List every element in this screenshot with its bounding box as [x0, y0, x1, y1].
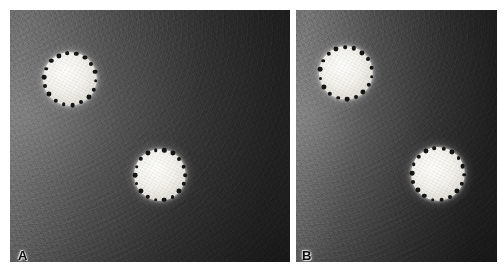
disc-perimeter-marker — [177, 157, 181, 161]
panel-a — [10, 10, 290, 262]
disc-perimeter-marker — [43, 84, 47, 88]
disc-perimeter-marker — [366, 57, 370, 61]
disc-perimeter-marker — [319, 77, 323, 81]
disc-perimeter-marker — [462, 173, 465, 176]
disc-perimeter-marker — [145, 151, 150, 156]
disc-perimeter-marker — [92, 87, 96, 91]
panel-label-a: A — [18, 249, 28, 262]
disc-perimeter-marker — [177, 189, 182, 194]
disc-perimeter-marker — [93, 70, 98, 75]
disc-perimeter-marker — [361, 90, 366, 95]
disc-perimeter-marker — [415, 188, 420, 193]
disc-perimeter-marker — [369, 65, 374, 70]
disc-a-2 — [129, 144, 191, 206]
disc-perimeter-marker — [135, 182, 139, 186]
disc-perimeter-marker — [321, 84, 326, 89]
disc-b-1 — [314, 41, 378, 105]
disc-perimeter-marker — [370, 75, 373, 78]
disc-perimeter-marker — [89, 62, 93, 66]
disc-perimeter-marker — [170, 151, 175, 156]
disc-perimeter-marker — [181, 164, 186, 169]
disc-perimeter-marker — [133, 173, 138, 178]
disc-perimeter-marker — [334, 46, 339, 51]
disc-perimeter-marker — [367, 83, 371, 87]
disc-perimeter-marker — [82, 55, 87, 60]
disc-perimeter-marker — [455, 189, 460, 194]
panel-b — [296, 10, 497, 262]
disc-perimeter-marker — [79, 100, 83, 104]
disc-perimeter-marker — [460, 182, 464, 186]
disc-perimeter-marker — [457, 156, 461, 160]
disc-perimeter-marker — [171, 195, 175, 199]
disc-perimeter-marker — [162, 197, 167, 202]
disc-perimeter-marker — [439, 197, 444, 202]
figure-root: A B — [0, 0, 504, 280]
disc-perimeter-marker — [423, 149, 428, 154]
disc-perimeter-marker — [318, 67, 323, 72]
disc-a-1 — [38, 47, 102, 111]
disc-perimeter-marker — [183, 173, 186, 176]
disc-perimeter-marker — [181, 181, 185, 185]
disc-b-2 — [406, 142, 470, 206]
disc-perimeter-marker — [354, 95, 358, 99]
disc-perimeter-marker — [86, 95, 91, 100]
disc-perimeter-marker — [449, 149, 454, 154]
disc-perimeter-marker — [345, 97, 350, 102]
disc-perimeter-marker — [460, 164, 465, 169]
disc-perimeter-marker — [360, 50, 365, 55]
disc-perimeter-marker — [411, 180, 415, 184]
disc-perimeter-marker — [410, 171, 415, 176]
disc-perimeter-marker — [448, 195, 452, 199]
disc-perimeter-marker — [56, 53, 61, 58]
disc-perimeter-marker — [42, 75, 47, 80]
disc-perimeter-marker — [46, 92, 51, 97]
disc-perimeter-marker — [138, 189, 143, 194]
disc-perimeter-marker — [94, 79, 97, 82]
disc-perimeter-marker — [70, 103, 75, 108]
panel-label-b: B — [302, 249, 312, 262]
